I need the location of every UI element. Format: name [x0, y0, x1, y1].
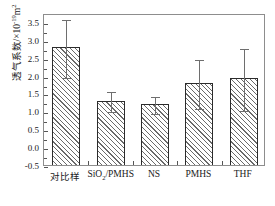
bar-group [44, 15, 88, 165]
error-bar-cap-top [240, 49, 249, 50]
y-axis-title-text: 透气系数/×10 [12, 24, 22, 82]
error-bar-cap-top [62, 20, 71, 21]
y-tick-label: 1.0 [28, 107, 39, 117]
error-bar [111, 92, 112, 113]
x-axis-label-0: 对比样 [43, 169, 87, 183]
error-bar [155, 97, 156, 115]
y-tick-label: 2.5 [28, 54, 39, 64]
y-axis-title-exponent: -19 [10, 15, 17, 24]
bar-chart-figure: 透气系数/×10-19m2 -0.50.00.51.01.52.02.53.03… [0, 0, 275, 206]
y-tick-label: 2.0 [28, 72, 39, 82]
y-tick-mark [44, 167, 48, 168]
error-bar-cap-bottom [195, 109, 204, 110]
y-tick-label: 0.0 [28, 143, 39, 153]
error-bar-cap-bottom [107, 112, 116, 113]
x-axis-label-3: PMHS [176, 169, 220, 179]
y-tick-label: 1.5 [28, 89, 39, 99]
error-bar-cap-bottom [62, 78, 71, 79]
error-bar-cap-top [195, 60, 204, 61]
x-axis-label-4: THF [221, 169, 265, 179]
y-tick-label: -0.5 [25, 161, 39, 171]
error-bar-cap-bottom [240, 111, 249, 112]
bar-group [88, 15, 132, 165]
x-label-text-tail: /PMHS [105, 169, 134, 179]
error-bar [244, 49, 245, 112]
bar-group [177, 15, 221, 165]
bar-group [133, 15, 177, 165]
bar-group [222, 15, 266, 165]
y-axis-title-unit-exponent: 2 [10, 5, 17, 8]
error-bar-cap-top [107, 92, 116, 93]
x-label-text: SiO [87, 169, 102, 179]
x-axis-label-2: NS [132, 169, 176, 179]
y-tick-label: 3.0 [28, 36, 39, 46]
x-axis-label-1: SiO2/PMHS [87, 169, 131, 179]
y-axis-title-unit: m [12, 8, 22, 15]
error-bar-cap-bottom [151, 114, 160, 115]
error-bar [66, 20, 67, 79]
error-bar [199, 60, 200, 110]
plot-area: -0.50.00.51.01.52.02.53.03.5 [43, 14, 265, 166]
y-tick-label: 0.5 [28, 125, 39, 135]
error-bar-cap-top [151, 97, 160, 98]
y-tick-label: 3.5 [28, 18, 39, 28]
y-axis-title: 透气系数/×10-19m2 [9, 0, 23, 108]
